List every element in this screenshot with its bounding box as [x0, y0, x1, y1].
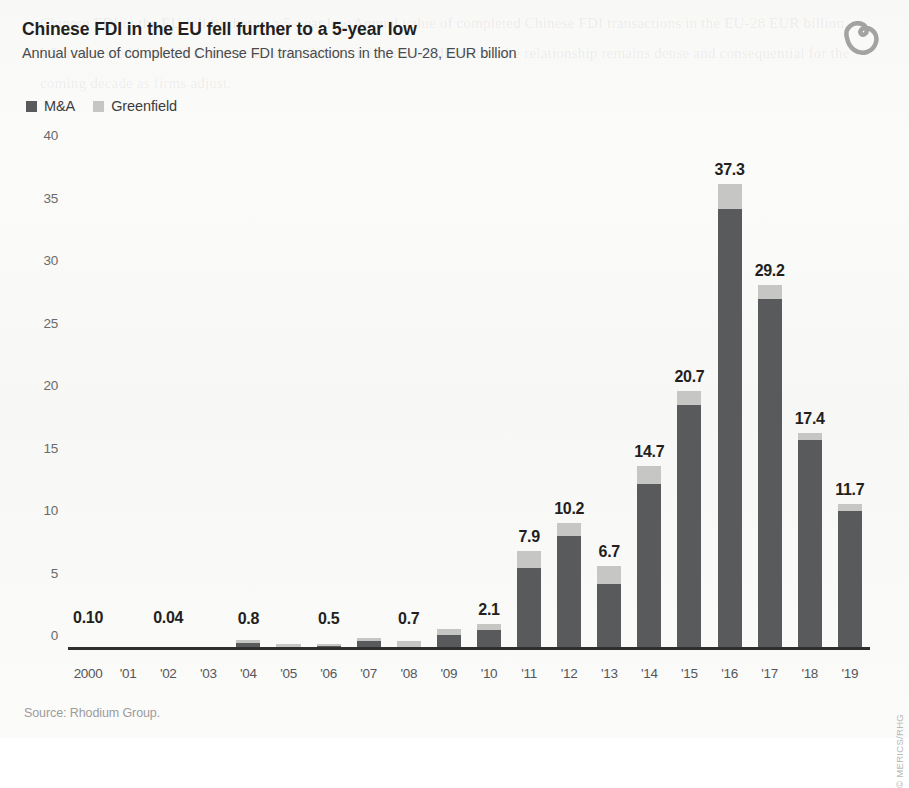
x-axis-tick: '13 — [589, 666, 629, 681]
bar-group[interactable]: 29.2 — [750, 150, 790, 650]
bar-group[interactable] — [268, 150, 308, 650]
x-axis-tick: '19 — [830, 666, 870, 681]
bar-stack[interactable]: 14.7 — [637, 466, 661, 650]
bar-group[interactable]: 0.5 — [309, 150, 349, 650]
bar-group[interactable]: 6.7 — [589, 150, 629, 650]
bar-segment-ma[interactable] — [557, 536, 581, 650]
x-axis-tick: '03 — [188, 666, 228, 681]
bar-value-label: 29.2 — [755, 262, 785, 280]
bar-value-label: 7.9 — [518, 528, 539, 546]
bar-group[interactable]: 0.10 — [68, 150, 108, 650]
bar-segment-ma[interactable] — [838, 511, 862, 650]
x-axis-tick: '06 — [309, 666, 349, 681]
bar-value-label: 20.7 — [674, 368, 704, 386]
bar-group[interactable]: 2.1 — [469, 150, 509, 650]
bar-group[interactable] — [429, 150, 469, 650]
bar-value-label: 2.1 — [478, 601, 499, 619]
y-axis-tick: 20 — [43, 378, 58, 393]
x-axis-tick: '17 — [750, 666, 790, 681]
y-axis-tick: 35 — [43, 190, 58, 205]
x-axis-tick: '08 — [389, 666, 429, 681]
bar-group[interactable]: 10.2 — [549, 150, 589, 650]
bar-stack[interactable]: 37.3 — [718, 184, 742, 650]
bar-group[interactable]: 0.8 — [228, 150, 268, 650]
bar-value-label: 0.7 — [398, 610, 419, 628]
bar-value-label: 0.04 — [153, 609, 183, 627]
chart-legend: M&A Greenfield — [26, 98, 177, 114]
copyright-credit: © MERICS/RHG — [894, 714, 905, 788]
bar-segment-ma[interactable] — [798, 440, 822, 650]
bar-stack[interactable]: 29.2 — [758, 285, 782, 650]
bar-segment-ma[interactable] — [517, 568, 541, 651]
bar-series-container: 0.100.040.80.50.72.17.910.26.714.720.737… — [68, 150, 870, 650]
legend-label-ma: M&A — [44, 98, 75, 114]
bar-value-label: 6.7 — [599, 543, 620, 561]
y-axis-tick: 10 — [43, 503, 58, 518]
bar-segment-ma[interactable] — [758, 299, 782, 650]
bar-segment-greenfield[interactable] — [758, 285, 782, 299]
bar-segment-greenfield[interactable] — [517, 551, 541, 567]
x-axis-tick: '14 — [629, 666, 669, 681]
bar-value-label: 0.8 — [238, 610, 259, 628]
x-axis-tick: '12 — [549, 666, 589, 681]
bar-segment-greenfield[interactable] — [798, 433, 822, 441]
bar-stack[interactable]: 17.4 — [798, 433, 822, 651]
x-axis-tick: '04 — [228, 666, 268, 681]
legend-item-ma: M&A — [26, 98, 75, 114]
bar-group[interactable]: 7.9 — [509, 150, 549, 650]
bar-group[interactable]: 14.7 — [629, 150, 669, 650]
bar-stack[interactable]: 11.7 — [838, 504, 862, 650]
bar-segment-ma[interactable] — [597, 584, 621, 650]
x-axis: 2000'01'02'03'04'05'06'07'08'09'10'11'12… — [68, 666, 870, 681]
bar-value-label: 37.3 — [715, 161, 745, 179]
bar-segment-greenfield[interactable] — [838, 504, 862, 512]
bar-segment-ma[interactable] — [677, 405, 701, 650]
bar-group[interactable] — [108, 150, 148, 650]
bar-group[interactable]: 0.7 — [389, 150, 429, 650]
bar-segment-greenfield[interactable] — [557, 523, 581, 537]
x-axis-tick: '18 — [790, 666, 830, 681]
chart-header: Chinese FDI in the EU fell further to a … — [22, 18, 839, 63]
bar-value-label: 0.5 — [318, 610, 339, 628]
bar-stack[interactable]: 7.9 — [517, 551, 541, 650]
bar-group[interactable] — [349, 150, 389, 650]
y-axis-tick: 25 — [43, 315, 58, 330]
merics-logo — [835, 16, 887, 60]
legend-swatch-ma-icon — [26, 101, 37, 112]
plot-area: 0.100.040.80.50.72.17.910.26.714.720.737… — [68, 150, 870, 662]
bar-group[interactable]: 11.7 — [830, 150, 870, 650]
bar-segment-ma[interactable] — [718, 209, 742, 650]
bar-group[interactable]: 0.04 — [148, 150, 188, 650]
bar-segment-greenfield[interactable] — [597, 566, 621, 584]
bar-segment-greenfield[interactable] — [677, 391, 701, 405]
bar-value-label: 14.7 — [634, 443, 664, 461]
bar-group[interactable]: 17.4 — [790, 150, 830, 650]
bar-stack[interactable]: 20.7 — [677, 391, 701, 650]
x-axis-tick: '01 — [108, 666, 148, 681]
bar-segment-greenfield[interactable] — [718, 184, 742, 209]
bar-stack[interactable]: 10.2 — [557, 523, 581, 651]
bar-group[interactable]: 20.7 — [669, 150, 709, 650]
bar-stack[interactable]: 6.7 — [597, 566, 621, 650]
y-axis-tick: 15 — [43, 440, 58, 455]
legend-item-greenfield: Greenfield — [93, 98, 177, 114]
bar-group[interactable] — [188, 150, 228, 650]
page-title: Chinese FDI in the EU fell further to a … — [22, 18, 839, 40]
y-axis-tick: 5 — [51, 565, 58, 580]
bar-segment-ma[interactable] — [637, 484, 661, 650]
chart-subtitle: Annual value of completed Chinese FDI tr… — [22, 44, 839, 63]
y-axis: 0510152025303540 — [22, 150, 66, 662]
x-axis-tick: '05 — [268, 666, 308, 681]
bar-value-label: 17.4 — [795, 410, 825, 428]
bar-group[interactable]: 37.3 — [710, 150, 750, 650]
legend-label-greenfield: Greenfield — [111, 98, 177, 114]
bar-segment-greenfield[interactable] — [637, 466, 661, 484]
x-axis-line — [68, 647, 870, 650]
bar-value-label: 0.10 — [73, 609, 103, 627]
source-note: Source: Rhodium Group. — [24, 706, 160, 720]
x-axis-tick: '10 — [469, 666, 509, 681]
plot-container: 0510152025303540 0.100.040.80.50.72.17.9… — [22, 150, 884, 662]
bar-value-label: 11.7 — [835, 481, 864, 499]
x-axis-tick: '16 — [710, 666, 750, 681]
